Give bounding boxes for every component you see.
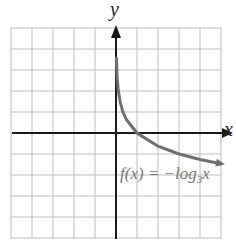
function-curve <box>116 58 221 164</box>
function-prefix: f(x) = −log <box>120 164 197 183</box>
function-label: f(x) = −log3x <box>120 164 210 185</box>
y-axis-label: y <box>110 0 119 21</box>
curve-arrow-icon <box>215 159 225 167</box>
chart-canvas <box>0 0 236 243</box>
x-axis-label: x <box>224 118 233 141</box>
y-axis-arrow-icon <box>111 25 121 38</box>
function-variable: x <box>202 164 210 183</box>
